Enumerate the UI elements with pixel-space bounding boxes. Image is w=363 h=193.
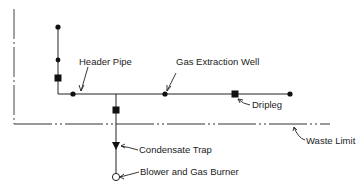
blower-burner-icon (112, 173, 119, 180)
header-pipe-label: Header Pipe (79, 56, 132, 67)
waste-limit-label: Waste Limit (306, 135, 356, 146)
condensate-trap-label: Condensate Trap (139, 144, 212, 155)
dripleg-node (113, 107, 120, 114)
well-node (287, 91, 292, 96)
condensate-trap-icon (112, 142, 120, 150)
header-pipe-leader (81, 67, 88, 91)
gas-extraction-diagram: Header Pipe Gas Extraction Well Dripleg … (0, 0, 363, 193)
gas-extraction-well-label: Gas Extraction Well (176, 56, 259, 67)
gas-well-leader (167, 73, 176, 91)
condensate-trap-leader (121, 146, 138, 150)
arrowhead-icon (167, 85, 171, 91)
dripleg-node (55, 75, 62, 82)
well-node (56, 58, 61, 63)
gas-extraction-well-node (162, 91, 167, 96)
dripleg-node (232, 91, 239, 98)
well-node (55, 24, 60, 29)
well-node (70, 91, 75, 96)
dripleg-label: Dripleg (252, 99, 282, 110)
blower-and-gas-burner-label: Blower and Gas Burner (140, 166, 239, 177)
